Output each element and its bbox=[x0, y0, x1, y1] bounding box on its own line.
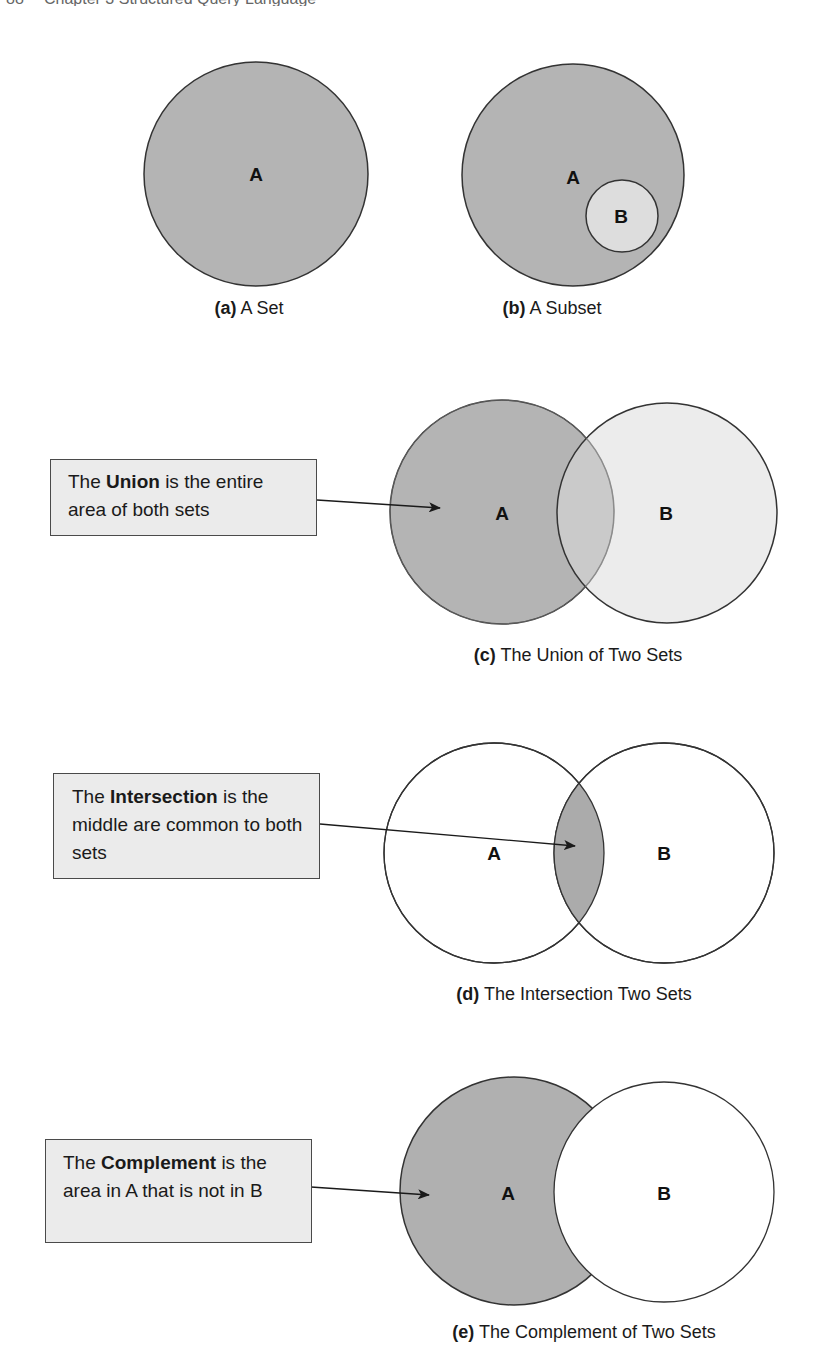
caption-b-text: A Subset bbox=[529, 298, 601, 318]
figure-b-subset: A B bbox=[462, 64, 684, 286]
caption-b: (b) A Subset bbox=[502, 298, 601, 319]
intersection-callout: The Intersection is the middle are commo… bbox=[53, 773, 320, 879]
set-b-label: B bbox=[659, 503, 673, 524]
subset-b-label: B bbox=[614, 206, 628, 227]
complement-callout-term: Complement bbox=[101, 1152, 216, 1173]
caption-e-letter: (e) bbox=[452, 1322, 474, 1342]
intersection-callout-term: Intersection bbox=[110, 786, 218, 807]
caption-e-text: The Complement of Two Sets bbox=[479, 1322, 716, 1342]
caption-d-letter: (d) bbox=[456, 984, 479, 1004]
caption-a: (a) A Set bbox=[214, 298, 283, 319]
caption-d-text: The Intersection Two Sets bbox=[484, 984, 692, 1004]
set-a-label: A bbox=[487, 843, 501, 864]
union-callout: The Union is the entire area of both set… bbox=[50, 459, 317, 536]
intersection-callout-pre: The bbox=[72, 786, 110, 807]
complement-callout: The Complement is the area in A that is … bbox=[45, 1139, 312, 1243]
union-callout-pre: The bbox=[68, 471, 106, 492]
set-a-label: A bbox=[249, 164, 263, 185]
caption-a-letter: (a) bbox=[214, 298, 236, 318]
set-a-label: A bbox=[566, 167, 580, 188]
caption-b-letter: (b) bbox=[502, 298, 525, 318]
figure-e-complement: A B bbox=[311, 1077, 774, 1305]
caption-c: (c) The Union of Two Sets bbox=[474, 645, 682, 666]
set-b-label: B bbox=[657, 843, 671, 864]
figure-d-intersection: A B bbox=[320, 743, 774, 963]
set-a-label: A bbox=[501, 1183, 515, 1204]
union-callout-term: Union bbox=[106, 471, 160, 492]
complement-callout-pre: The bbox=[63, 1152, 101, 1173]
set-a-label: A bbox=[495, 503, 509, 524]
caption-a-text: A Set bbox=[240, 298, 283, 318]
figure-c-union: A B bbox=[317, 400, 777, 624]
caption-d: (d) The Intersection Two Sets bbox=[456, 984, 691, 1005]
caption-c-letter: (c) bbox=[474, 645, 496, 665]
figure-a-set: A bbox=[144, 62, 368, 286]
caption-e: (e) The Complement of Two Sets bbox=[452, 1322, 715, 1343]
caption-c-text: The Union of Two Sets bbox=[500, 645, 682, 665]
set-b-label: B bbox=[657, 1183, 671, 1204]
